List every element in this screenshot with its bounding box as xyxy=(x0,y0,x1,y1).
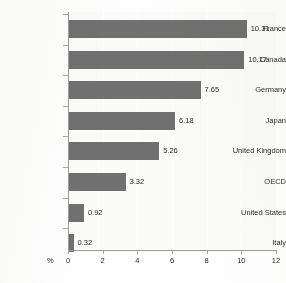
y-axis-tick xyxy=(63,106,68,107)
x-axis-tick xyxy=(68,250,69,254)
value-label: 3.32 xyxy=(130,177,145,187)
y-axis-tick xyxy=(63,167,68,168)
value-label: 7.65 xyxy=(205,85,220,95)
bar-chart: FranceCanadaGermanyJapanUnited KingdomOE… xyxy=(0,0,286,283)
y-axis-tick xyxy=(63,136,68,137)
bar xyxy=(68,20,247,38)
gridline xyxy=(172,12,173,250)
y-axis-tick xyxy=(63,75,68,76)
bar xyxy=(68,204,84,222)
value-label: 0.32 xyxy=(78,238,93,248)
x-axis-tick xyxy=(172,250,173,254)
gridline xyxy=(103,12,104,250)
y-axis-line xyxy=(68,12,69,250)
gridline xyxy=(137,12,138,250)
value-label: 10.31 xyxy=(251,24,270,34)
x-axis-tick-label: 10 xyxy=(237,256,245,266)
category-label: United States xyxy=(224,208,286,218)
bar xyxy=(68,81,201,99)
bar xyxy=(68,142,159,160)
category-label: Germany xyxy=(224,85,286,95)
gridline xyxy=(207,12,208,250)
x-axis-tick-label: 8 xyxy=(205,256,209,266)
bar xyxy=(68,173,126,191)
x-axis-tick-label: 2 xyxy=(101,256,105,266)
bar xyxy=(68,51,244,69)
y-axis-tick xyxy=(63,14,68,15)
value-label: 6.18 xyxy=(179,116,194,126)
category-label: United Kingdom xyxy=(224,146,286,156)
x-axis-tick-label: 12 xyxy=(272,256,280,266)
x-axis-tick xyxy=(276,250,277,254)
y-axis-tick xyxy=(63,45,68,46)
y-axis-tick xyxy=(63,198,68,199)
y-axis-tick xyxy=(63,228,68,229)
x-axis-tick-label: 4 xyxy=(135,256,139,266)
x-axis-tick xyxy=(241,250,242,254)
x-axis-tick xyxy=(103,250,104,254)
bar xyxy=(68,112,175,130)
category-label: Italy xyxy=(224,238,286,248)
x-axis-tick xyxy=(207,250,208,254)
x-axis-tick-label: 0 xyxy=(66,256,70,266)
value-label: 0.92 xyxy=(88,208,103,218)
x-axis-tick-label: 6 xyxy=(170,256,174,266)
x-axis-tick xyxy=(137,250,138,254)
category-label: OECD xyxy=(224,177,286,187)
category-label: Japan xyxy=(224,116,286,126)
value-label: 5.26 xyxy=(163,146,178,156)
x-axis-unit-label: % xyxy=(47,256,54,266)
value-label: 10.17 xyxy=(248,55,267,65)
